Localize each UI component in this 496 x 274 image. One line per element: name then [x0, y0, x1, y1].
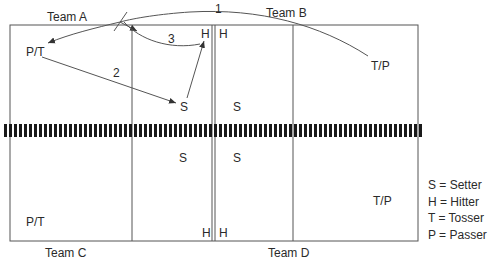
team-c-setter: S [179, 152, 187, 164]
ball-path-2 [42, 57, 176, 103]
team-a-label: Team A [47, 11, 87, 23]
team-d-setter: S [233, 152, 241, 164]
ball-path-3 [124, 22, 200, 46]
team-d-hitter: H [219, 227, 228, 239]
legend-item-setter: S = Setter [428, 177, 487, 194]
set-path [187, 41, 204, 98]
legend-item-hitter: H = Hitter [428, 194, 487, 211]
team-d-tosser-passer: T/P [373, 195, 392, 207]
court-diagram [0, 0, 496, 274]
step-3-label: 3 [168, 33, 175, 45]
net [4, 124, 423, 137]
step-1-label: 1 [215, 3, 222, 15]
legend-item-passer: P = Passer [428, 227, 487, 244]
team-b-label: Team B [266, 7, 307, 19]
step-2-label: 2 [113, 67, 120, 79]
team-b-tosser-passer: T/P [371, 60, 390, 72]
legend: S = Setter H = Hitter T = Tosser P = Pas… [428, 177, 487, 243]
team-a-hitter: H [201, 28, 210, 40]
cross-mark [114, 12, 127, 31]
team-c-passer-tosser: P/T [26, 216, 45, 228]
ball-path-1 [120, 11, 368, 56]
team-c-hitter: H [202, 227, 211, 239]
legend-item-tosser: T = Tosser [428, 210, 487, 227]
team-d-label: Team D [268, 247, 309, 259]
team-b-setter: S [233, 101, 241, 113]
team-a-setter: S [180, 101, 188, 113]
team-c-label: Team C [45, 247, 86, 259]
team-a-passer-tosser: P/T [26, 46, 45, 58]
team-b-hitter: H [219, 28, 228, 40]
